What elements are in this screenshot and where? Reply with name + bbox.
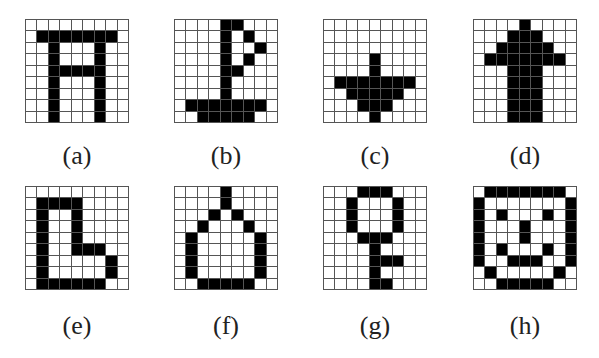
empty-cell <box>26 256 36 266</box>
empty-cell <box>416 89 426 99</box>
empty-cell <box>37 112 47 122</box>
empty-cell <box>95 187 105 197</box>
empty-cell <box>26 198 36 208</box>
empty-cell <box>106 244 116 254</box>
filled-cell <box>95 279 105 289</box>
empty-cell <box>221 221 231 231</box>
empty-cell <box>485 20 495 30</box>
empty-cell <box>255 31 265 41</box>
panel-e <box>25 186 131 290</box>
filled-cell <box>49 112 59 122</box>
empty-cell <box>267 43 277 53</box>
filled-cell <box>83 66 93 76</box>
filled-cell <box>49 54 59 64</box>
empty-cell <box>370 198 380 208</box>
empty-cell <box>232 187 242 197</box>
empty-cell <box>543 66 553 76</box>
filled-cell <box>531 112 541 122</box>
filled-cell <box>381 89 391 99</box>
empty-cell <box>186 279 196 289</box>
empty-cell <box>60 187 70 197</box>
filled-cell <box>221 66 231 76</box>
empty-cell <box>83 256 93 266</box>
empty-cell <box>232 54 242 64</box>
pixel-grid-b <box>174 19 278 123</box>
empty-cell <box>118 267 128 277</box>
empty-cell <box>267 198 277 208</box>
empty-cell <box>255 54 265 64</box>
empty-cell <box>566 267 576 277</box>
empty-cell <box>175 43 185 53</box>
empty-cell <box>335 256 345 266</box>
filled-cell <box>95 31 105 41</box>
empty-cell <box>198 244 208 254</box>
empty-cell <box>554 66 564 76</box>
filled-cell <box>37 267 47 277</box>
empty-cell <box>118 279 128 289</box>
empty-cell <box>381 221 391 231</box>
empty-cell <box>106 54 116 64</box>
empty-cell <box>255 20 265 30</box>
empty-cell <box>198 187 208 197</box>
empty-cell <box>95 233 105 243</box>
pixel-grid-h <box>473 186 577 290</box>
empty-cell <box>83 210 93 220</box>
empty-cell <box>106 233 116 243</box>
filled-cell <box>474 210 484 220</box>
empty-cell <box>232 77 242 87</box>
empty-cell <box>198 43 208 53</box>
filled-cell <box>370 66 380 76</box>
empty-cell <box>198 31 208 41</box>
empty-cell <box>267 210 277 220</box>
filled-cell <box>95 244 105 254</box>
empty-cell <box>118 244 128 254</box>
empty-cell <box>175 187 185 197</box>
empty-cell <box>175 20 185 30</box>
empty-cell <box>26 244 36 254</box>
empty-cell <box>83 267 93 277</box>
empty-cell <box>393 187 403 197</box>
empty-cell <box>60 210 70 220</box>
empty-cell <box>381 198 391 208</box>
filled-cell <box>95 43 105 53</box>
filled-cell <box>232 210 242 220</box>
empty-cell <box>474 89 484 99</box>
empty-cell <box>543 100 553 110</box>
empty-cell <box>186 187 196 197</box>
empty-cell <box>175 233 185 243</box>
panel-label-d: (d) <box>473 143 577 169</box>
empty-cell <box>358 66 368 76</box>
empty-cell <box>381 54 391 64</box>
empty-cell <box>198 256 208 266</box>
empty-cell <box>26 43 36 53</box>
empty-cell <box>106 198 116 208</box>
empty-cell <box>267 233 277 243</box>
empty-cell <box>566 43 576 53</box>
filled-cell <box>531 31 541 41</box>
empty-cell <box>485 89 495 99</box>
empty-cell <box>232 256 242 266</box>
filled-cell <box>566 221 576 231</box>
empty-cell <box>221 267 231 277</box>
empty-cell <box>485 66 495 76</box>
filled-cell <box>49 77 59 87</box>
empty-cell <box>209 233 219 243</box>
empty-cell <box>255 187 265 197</box>
empty-cell <box>358 244 368 254</box>
empty-cell <box>209 187 219 197</box>
empty-cell <box>255 279 265 289</box>
filled-cell <box>497 244 507 254</box>
empty-cell <box>554 89 564 99</box>
empty-cell <box>267 54 277 64</box>
empty-cell <box>324 31 334 41</box>
empty-cell <box>554 112 564 122</box>
empty-cell <box>198 54 208 64</box>
empty-cell <box>485 100 495 110</box>
empty-cell <box>106 89 116 99</box>
empty-cell <box>474 66 484 76</box>
filled-cell <box>255 100 265 110</box>
empty-cell <box>118 100 128 110</box>
empty-cell <box>497 267 507 277</box>
empty-cell <box>324 233 334 243</box>
filled-cell <box>244 112 254 122</box>
